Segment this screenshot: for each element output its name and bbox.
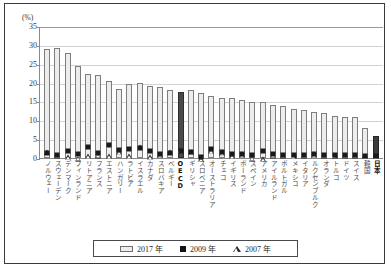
bar-column[interactable] [63,27,73,158]
x-axis-category-label: OECD [177,160,184,190]
bar-2017 [75,66,81,158]
bar-column[interactable] [165,27,175,158]
marker-2009-square [240,152,245,157]
x-axis-category-label: アイルランド [269,160,276,201]
x-axis-category: リトアニア [82,160,92,234]
bar-2017 [95,75,101,158]
bar-column[interactable] [319,27,329,158]
bar-column[interactable] [73,27,83,158]
bar-column[interactable] [247,27,257,158]
bar-2017 [157,87,163,158]
bar-column[interactable] [124,27,134,158]
marker-2009-square [96,151,101,156]
x-axis-category-label: オランダ [321,160,328,187]
bar-column[interactable] [268,27,278,158]
bar-2017 [137,83,143,158]
x-axis-category-label: チェコ [218,160,225,180]
bar-column[interactable] [196,27,206,158]
bar-column[interactable] [329,27,339,158]
y-axis-unit-label: (%) [22,13,33,22]
x-axis-category-label: ポルトガル [280,160,287,194]
legend-item[interactable]: 2009 年 [180,243,216,254]
bar-column[interactable] [104,27,114,158]
marker-2009-square [270,151,275,156]
legend-item[interactable]: 2017 年 [120,243,163,254]
x-axis-category: メキシコ [288,160,298,234]
bar-column[interactable] [371,27,381,158]
bar-column[interactable] [42,27,52,158]
bar-column[interactable] [227,27,237,158]
bar-column[interactable] [206,27,216,158]
marker-2007-triangle [106,154,112,159]
x-axis-category: イスラエル [134,160,144,234]
x-axis-category: スイス [350,160,360,234]
bar-2017 [311,112,317,158]
bar-column[interactable] [186,27,196,158]
x-axis-category-label: スペイン [249,160,256,187]
bar-2017 [229,98,235,158]
marker-2009-square [373,153,378,158]
x-axis-category: ギリシャ [185,160,195,234]
marker-2009-square [199,154,204,159]
marker-2009-square [312,152,317,157]
bar-2017 [332,116,338,158]
bar-column[interactable] [175,27,185,158]
bar-column[interactable] [309,27,319,158]
y-axis-tick-label: 25 [29,61,37,69]
bar-column[interactable] [134,27,144,158]
x-axis-category-label: スロベニア [197,160,204,194]
x-axis-category-label: 韓国 [362,160,369,174]
x-axis-category: ポーランド [237,160,247,234]
x-axis-category-label: ノルウェー [43,160,50,194]
x-axis-category-label: オーストラリア [208,160,215,208]
marker-2009-square [209,147,214,152]
x-axis-category: イギリス [226,160,236,234]
bar-column[interactable] [217,27,227,158]
bar-2017 [147,86,153,158]
bar-column[interactable] [278,27,288,158]
bar-column[interactable] [340,27,350,158]
legend-item[interactable]: 2007 年 [233,243,271,254]
x-axis-category-label: 日本 [372,160,379,174]
x-axis-category-label: デンマーク [63,160,70,194]
x-axis-category: フィンランド [72,160,82,234]
bar-column[interactable] [83,27,93,158]
bar-column[interactable] [350,27,360,158]
x-axis-category-label: スウェーデン [53,160,60,201]
bar-column[interactable] [145,27,155,158]
x-axis-category-label: アメリカ [259,160,266,187]
marker-2009-square [281,152,286,157]
x-axis-category-label: ハンガリー [115,160,122,194]
bar-column[interactable] [288,27,298,158]
bar-column[interactable] [237,27,247,158]
bar-column[interactable] [299,27,309,158]
marker-2009-square [291,153,296,158]
x-axis-category: スロベニア [195,160,205,234]
bar-column[interactable] [360,27,370,158]
chart-frame: (%) 05101520253035 ノルウェースウェーデンデンマークフィンラン… [4,3,385,264]
x-axis-category-label: トルコ [331,160,338,180]
bar-column[interactable] [93,27,103,158]
marker-2009-square [106,142,111,147]
x-axis-category-label: ルクセンブルク [311,160,318,208]
marker-2009-square [116,148,121,153]
bar-column[interactable] [52,27,62,158]
bar-2017 [249,102,255,158]
marker-2009-square [137,145,142,150]
bar-column[interactable] [155,27,165,158]
bar-2017 [219,98,225,158]
bar-2017 [208,96,214,158]
x-axis-category: アイルランド [268,160,278,234]
marker-2007-triangle [85,154,91,159]
x-axis-category-label: ドイツ [341,160,348,180]
bar-2017 [167,90,173,158]
bar-column[interactable] [114,27,124,158]
x-axis-category: OECD [175,160,185,234]
marker-2009-square [188,149,193,154]
bar-2017 [44,49,50,158]
marker-2009-square [332,152,337,157]
x-axis-category-label: カナダ [146,160,153,180]
bar-column[interactable] [258,27,268,158]
marker-2009-square [65,148,70,153]
bar-2017 [373,136,379,158]
